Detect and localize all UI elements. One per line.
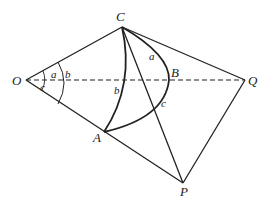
segment-CQ bbox=[122, 27, 245, 80]
label-angle-b: b bbox=[65, 68, 71, 80]
angle-arc-O bbox=[58, 62, 64, 104]
label-angle-c: c bbox=[40, 81, 45, 93]
label-C: C bbox=[116, 9, 125, 24]
label-B: B bbox=[171, 65, 179, 80]
label-A: A bbox=[92, 130, 101, 145]
segment-OC bbox=[26, 27, 122, 80]
label-side-a: a bbox=[149, 50, 155, 62]
label-angle-a: a bbox=[51, 68, 57, 80]
label-P: P bbox=[179, 184, 188, 199]
label-O: O bbox=[12, 73, 22, 88]
segment-QP bbox=[183, 80, 245, 183]
arc-CB bbox=[122, 27, 169, 80]
label-side-b: b bbox=[114, 84, 120, 96]
spherical-triangle-diagram: O C B Q A P a b c a b c bbox=[0, 0, 268, 201]
label-Q: Q bbox=[248, 73, 258, 88]
label-side-c: c bbox=[161, 97, 166, 109]
